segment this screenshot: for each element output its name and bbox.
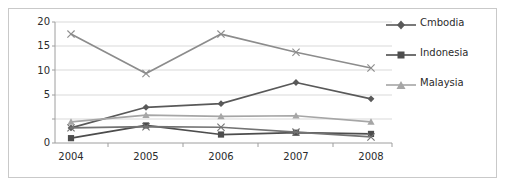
series-indonesia: [68, 122, 374, 141]
data-point: [143, 122, 149, 128]
legend-item-cmbodia[interactable]: Cmbodia: [386, 15, 464, 29]
legend-item-indonesia[interactable]: Indonesia: [386, 45, 468, 59]
square-icon: [386, 46, 416, 58]
data-point: [67, 31, 74, 38]
series-group: [67, 31, 374, 142]
data-point: [68, 135, 74, 141]
series-malaysia: [67, 112, 374, 125]
chart-screenshot: 20 15 10 5 0 2004 2005 2006 2007 2008: [0, 0, 507, 188]
triangle-icon: [386, 76, 416, 88]
diamond-icon: [386, 16, 416, 28]
legend-item-malaysia[interactable]: Malaysia: [386, 75, 464, 89]
legend-label-cmbodia: Cmbodia: [416, 17, 464, 28]
chart-legend: Cmbodia Indonesia Malaysia: [386, 10, 498, 92]
data-point: [142, 70, 149, 77]
data-point: [368, 95, 375, 102]
data-point: [218, 100, 225, 107]
data-point: [293, 79, 300, 86]
series-line: [71, 34, 371, 73]
series-cmbodia: [68, 79, 375, 131]
legend-label-malaysia: Malaysia: [416, 77, 464, 88]
data-point: [218, 131, 224, 137]
data-point: [143, 104, 150, 111]
legend-label-indonesia: Indonesia: [416, 47, 468, 58]
